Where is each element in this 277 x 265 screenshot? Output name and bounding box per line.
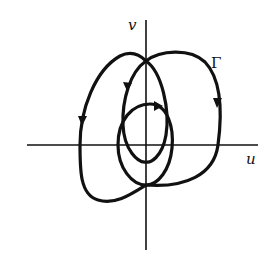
phase-plane-diagram: v u Γ — [0, 0, 277, 265]
outer-trajectory-curve — [80, 52, 220, 201]
diagram-canvas — [0, 0, 277, 265]
arrow-outer-left-icon — [78, 116, 87, 126]
v-axis-label: v — [128, 18, 136, 33]
arrow-inner-left-icon — [123, 82, 132, 91]
gamma-curve-label: Γ — [211, 56, 221, 71]
u-axis-label: u — [246, 152, 256, 167]
